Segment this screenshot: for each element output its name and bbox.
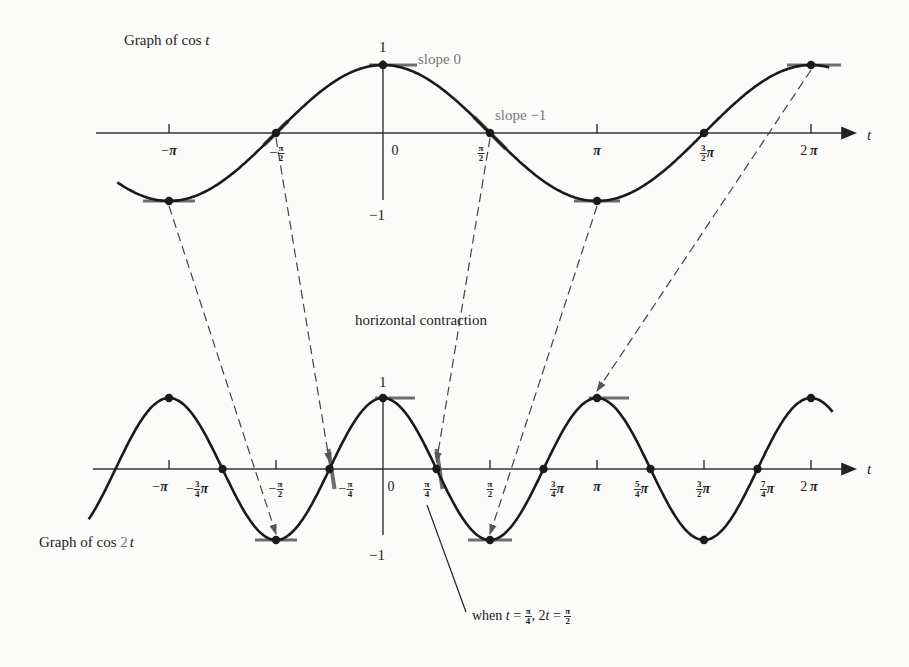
figure-canvas [0, 0, 909, 667]
tick-label-seven-quarter-pi: 74π [760, 480, 774, 499]
note-mid: , 2 [532, 608, 546, 623]
axis-var: t [867, 461, 871, 477]
point-dot [807, 61, 815, 69]
point-dot [272, 536, 280, 544]
point-dot [165, 394, 173, 402]
point-dot [753, 465, 761, 473]
top-y-label-one: 1 [379, 40, 387, 55]
top-y-label-minus-one: −1 [369, 208, 385, 223]
bottom-y-label-one: 1 [379, 375, 387, 390]
tick-label-two-pi: 2 π [800, 144, 817, 158]
mapping-arrow [276, 138, 330, 462]
point-dot [539, 465, 547, 473]
frac-den: 4 [525, 617, 532, 626]
note-eq-2: = [549, 608, 564, 623]
note-pointer-line [427, 505, 466, 612]
title-coef: 2 [120, 534, 128, 550]
tick-label-pi: π [593, 480, 601, 494]
point-dot [325, 465, 333, 473]
point-dot [272, 129, 280, 137]
title-var: t [205, 32, 209, 48]
tick-label-pi: π [593, 144, 601, 158]
point-dot [593, 394, 601, 402]
tick-label-zero: 0 [392, 144, 399, 158]
tick-label-neg-pi: −π [152, 480, 168, 494]
point-dot [432, 465, 440, 473]
slope-minus-one-annotation: slope −1 [495, 108, 546, 123]
tick-label-neg-half-pi: −π2 [270, 144, 285, 163]
tick-label-three-quarter-pi: 34π [550, 480, 564, 499]
mapping-arrow [437, 138, 491, 462]
point-dot [486, 536, 494, 544]
point-dot [486, 129, 494, 137]
note-frac-2: π2 [564, 607, 571, 626]
tick-label-half-pi: π2 [478, 144, 485, 163]
point-dot [700, 129, 708, 137]
mapping-arrow [490, 206, 597, 534]
top-graph-title: Graph of cos t [124, 33, 209, 48]
top-axes [96, 60, 854, 200]
title-text: Graph of cos [39, 534, 120, 550]
point-dot [218, 465, 226, 473]
bottom-y-label-minus-one: −1 [369, 548, 385, 563]
point-dot [165, 197, 173, 205]
tick-label-five-quarter-pi: 54π [634, 480, 648, 499]
when-note: when t = π4, 2t = π2 [472, 607, 571, 626]
tick-label-neg-quarter-pi: −π4 [339, 480, 354, 499]
title-text: Graph of cos [124, 32, 205, 48]
axis-var: t [867, 127, 871, 143]
top-axis-var: t [867, 128, 871, 143]
point-dot [807, 394, 815, 402]
point-dot [593, 197, 601, 205]
bottom-axis-var: t [867, 462, 871, 477]
tick-label-two-pi: 2 π [800, 480, 817, 494]
tick-label-three-half-pi: 32π [700, 144, 714, 163]
mapping-arrow [597, 70, 811, 391]
tick-label-neg-pi: −π [161, 144, 177, 158]
horizontal-contraction-label: horizontal contraction [355, 313, 487, 328]
note-frac-1: π4 [525, 607, 532, 626]
tick-label-three-half-pi: 32π [696, 480, 710, 499]
point-dot [379, 61, 387, 69]
tick-label-quarter-pi: π4 [424, 480, 431, 499]
tick-label-neg-three-quarter-pi: −34π [186, 480, 208, 499]
note-prefix: when [472, 608, 506, 623]
frac-den: 2 [564, 617, 571, 626]
bottom-graph-title: Graph of cos 2t [39, 535, 134, 550]
tick-label-neg-half-pi: −π2 [269, 480, 284, 499]
title-var: t [130, 534, 134, 550]
slope-zero-annotation: slope 0 [418, 52, 461, 67]
tick-label-half-pi: π2 [487, 480, 494, 499]
bottom-axes [93, 398, 854, 535]
tick-label-zero: 0 [388, 480, 395, 494]
point-dot [700, 536, 708, 544]
note-eq: = [510, 608, 525, 623]
point-dot [646, 465, 654, 473]
point-dot [379, 394, 387, 402]
